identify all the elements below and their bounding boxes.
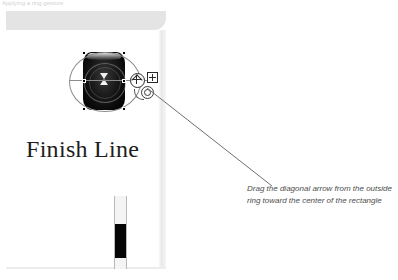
move-handle-plus-icon[interactable] [147,72,158,83]
resize-handle-top-right[interactable] [122,51,126,55]
resize-handle-bottom-right[interactable] [122,107,126,111]
panel-header-band [6,11,166,30]
selected-shape-object[interactable] [68,49,144,113]
resize-handle-left-mid[interactable] [82,79,86,83]
resize-handle-bottom-left[interactable] [82,107,86,111]
resize-handle-right-mid[interactable] [122,79,126,83]
panel-bottom-edge [6,267,166,269]
panel-right-edge-shadow [158,30,166,269]
gesture-endpoint-handle-icon[interactable] [141,86,154,99]
diagonal-arrow-handle-icon[interactable] [130,73,145,88]
clipped-top-text: Applying a ring gesture [2,0,122,8]
annotation-note: Drag the diagonal arrow from the outside… [247,183,395,206]
resize-handle-top-left[interactable] [82,51,86,55]
document-page-panel: Finish Line [6,11,166,269]
diagonal-arrow-glyph [131,74,142,85]
gesture-endpoint-dot [144,89,151,96]
vertical-scrollbar[interactable] [114,196,127,269]
page-caption-finish-line: Finish Line [26,136,156,163]
vertical-scrollbar-thumb[interactable] [115,224,126,258]
